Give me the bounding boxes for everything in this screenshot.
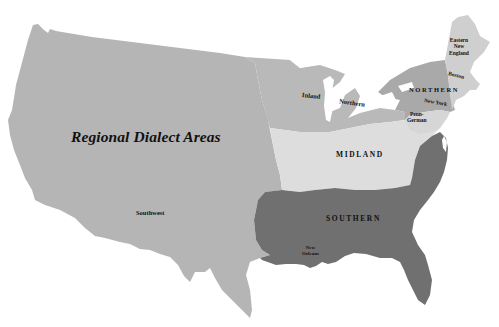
label-new-orleans: New Orleans	[302, 245, 319, 257]
label-penn-german: Penn- German	[407, 111, 427, 124]
label-northern: NORTHERN	[409, 87, 459, 94]
region-southwest	[8, 24, 282, 318]
label-southwest: Southwest	[136, 210, 165, 217]
dialect-map	[0, 0, 499, 327]
label-eastern-new-england-line-3: England	[449, 50, 469, 56]
label-penn-german-line-2: German	[407, 117, 427, 123]
map-title: Regional Dialect Areas	[71, 129, 221, 145]
region-eastern-new-england	[445, 15, 490, 110]
label-eastern-new-england: Eastern New England	[449, 37, 469, 56]
lake-superior	[290, 46, 350, 68]
label-new-orleans-line-2: Orleans	[302, 251, 319, 257]
label-midland: MIDLAND	[336, 151, 384, 159]
label-southern: SOUTHERN	[326, 215, 381, 223]
